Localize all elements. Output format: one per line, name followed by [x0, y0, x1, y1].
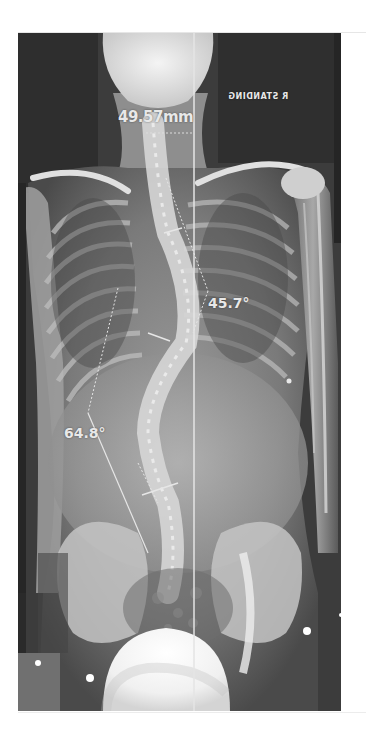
radiograph-anatomy	[18, 33, 341, 711]
spine-radiograph: 49.57mm R STANDING 45.7° 64.8°	[18, 33, 341, 711]
bottom-border	[18, 712, 366, 713]
